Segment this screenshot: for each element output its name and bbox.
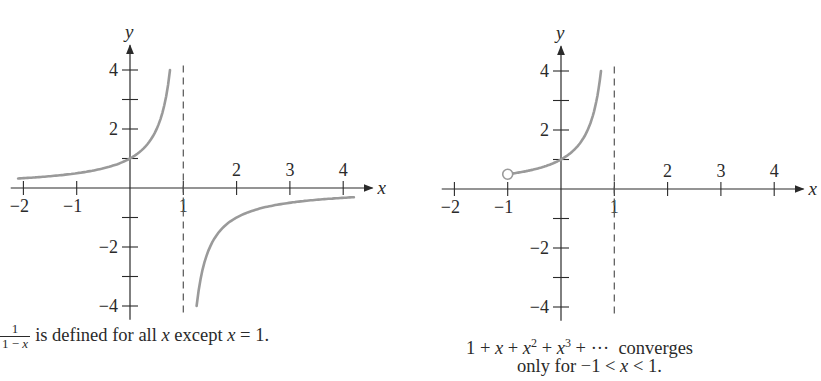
function-curve — [508, 71, 601, 174]
y-tick-label: 2 — [540, 120, 549, 140]
y-axis-label: y — [554, 22, 565, 43]
y-tick-label: 2 — [109, 119, 118, 139]
fraction-denominator: 1 − x — [0, 337, 30, 351]
left-caption: 1 1 − x is defined for all x except x = … — [0, 322, 269, 351]
x-tick-label: 4 — [339, 160, 348, 180]
x-axis-label: x — [808, 178, 818, 199]
y-tick-label: 4 — [540, 61, 549, 81]
x-tick-label: 3 — [716, 161, 725, 181]
y-tick-label: 4 — [109, 60, 118, 80]
y-tick-label: −4 — [530, 297, 549, 317]
x-tick-label: 2 — [232, 160, 241, 180]
convergence-interval: only for −1 < x < 1. — [517, 356, 662, 376]
x-tick-label: −1 — [494, 197, 513, 217]
x-tick-label: −1 — [63, 196, 82, 216]
x-tick-label: 4 — [770, 161, 779, 181]
right-graph: −2−11234−4−224xy — [441, 22, 818, 321]
function-curve — [18, 70, 170, 179]
x-tick-label: 3 — [285, 160, 294, 180]
x-tick-label: 2 — [663, 161, 672, 181]
left-graph: −2−11234−4−224xy — [10, 21, 387, 320]
x-tick-label: −2 — [441, 197, 460, 217]
x-axis-label: x — [377, 177, 387, 198]
y-tick-label: −2 — [530, 238, 549, 258]
y-axis-label: y — [123, 21, 134, 42]
x-tick-label: −2 — [10, 196, 29, 216]
y-tick-label: −2 — [99, 237, 118, 257]
open-endpoint-marker — [503, 169, 513, 179]
function-curve — [197, 197, 354, 306]
right-caption-line2: only for −1 < x < 1. — [517, 356, 662, 377]
y-tick-label: −4 — [99, 296, 118, 316]
fraction: 1 1 − x — [0, 322, 30, 351]
